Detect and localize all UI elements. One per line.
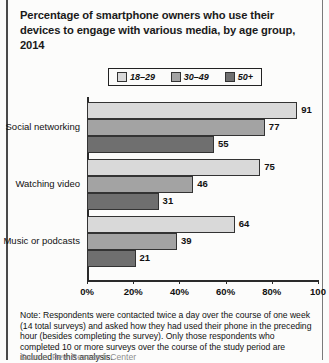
bar[interactable] bbox=[87, 250, 136, 267]
category-label: Music or podcasts bbox=[0, 235, 80, 246]
bar-row: 75 bbox=[87, 159, 318, 176]
legend-item-30-49: 30–49 bbox=[171, 72, 209, 82]
x-axis-tick bbox=[87, 280, 88, 284]
bar[interactable] bbox=[87, 193, 159, 210]
x-axis-tick-label: 20% bbox=[124, 286, 143, 297]
bar-row: 77 bbox=[87, 119, 318, 136]
chart-legend: 18–29 30–49 50+ bbox=[108, 68, 262, 86]
bar[interactable] bbox=[87, 102, 297, 119]
x-axis-tick-label: 80% bbox=[262, 286, 281, 297]
x-axis-tick-label: 0% bbox=[80, 286, 94, 297]
bar[interactable] bbox=[87, 159, 260, 176]
chart-title: Percentage of smartphone owners who use … bbox=[20, 8, 316, 53]
legend-swatch-50-plus bbox=[225, 72, 235, 82]
bar[interactable] bbox=[87, 216, 235, 233]
bar-value-label: 55 bbox=[218, 138, 229, 149]
bar-value-label: 77 bbox=[269, 121, 280, 132]
source-line-clipped: Source: Pew Research Center bbox=[20, 352, 316, 360]
x-axis-tick-label: 100 bbox=[310, 286, 326, 297]
bar-row: 91 bbox=[87, 102, 318, 119]
category-label: Social networking bbox=[0, 121, 80, 132]
x-axis-tick bbox=[179, 280, 180, 284]
bar-value-label: 91 bbox=[301, 104, 312, 115]
bar-row: 55 bbox=[87, 136, 318, 153]
bar-group: 917755 bbox=[87, 102, 318, 153]
bar-value-label: 64 bbox=[239, 218, 250, 229]
category-label: Watching video bbox=[0, 178, 80, 189]
bar-value-label: 46 bbox=[197, 178, 208, 189]
x-axis-tick-label: 40% bbox=[170, 286, 189, 297]
bar-value-label: 31 bbox=[163, 195, 174, 206]
bar-row: 64 bbox=[87, 216, 318, 233]
bar-value-label: 21 bbox=[140, 252, 151, 263]
legend-label-18-29: 18–29 bbox=[130, 72, 155, 82]
bar-group: 754631 bbox=[87, 159, 318, 210]
x-axis-tick bbox=[318, 280, 319, 284]
x-axis-tick bbox=[133, 280, 134, 284]
page-rule-right bbox=[322, 0, 323, 360]
chart-plot-area: 0%20%40%60%80%100917755754631643921 bbox=[87, 100, 318, 280]
bar[interactable] bbox=[87, 119, 265, 136]
legend-swatch-30-49 bbox=[171, 72, 181, 82]
bar-value-label: 39 bbox=[181, 235, 192, 246]
legend-label-50-plus: 50+ bbox=[238, 72, 253, 82]
x-axis-line bbox=[87, 280, 319, 282]
bar-value-label: 75 bbox=[264, 161, 275, 172]
bar-row: 31 bbox=[87, 193, 318, 210]
bar-row: 39 bbox=[87, 233, 318, 250]
legend-swatch-18-29 bbox=[117, 72, 127, 82]
bar[interactable] bbox=[87, 136, 214, 153]
legend-item-50-plus: 50+ bbox=[225, 72, 253, 82]
x-axis-tick-label: 60% bbox=[216, 286, 235, 297]
legend-label-30-49: 30–49 bbox=[184, 72, 209, 82]
x-axis-tick bbox=[226, 280, 227, 284]
bar-group: 643921 bbox=[87, 216, 318, 267]
bar[interactable] bbox=[87, 176, 193, 193]
x-axis-tick bbox=[272, 280, 273, 284]
legend-item-18-29: 18–29 bbox=[117, 72, 155, 82]
bar-row: 46 bbox=[87, 176, 318, 193]
bar[interactable] bbox=[87, 233, 177, 250]
bar-row: 21 bbox=[87, 250, 318, 267]
